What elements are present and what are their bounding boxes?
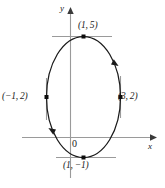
y-axis-label: y	[60, 4, 64, 13]
y-axis-arrow-icon	[67, 7, 73, 14]
point-label-right: (3, 2)	[118, 92, 137, 102]
point-marker-bottom	[82, 156, 86, 160]
ellipse-parametric-figure: (1, 5) (−1, 2) (3, 2) (1, −1) y x 0	[0, 0, 165, 188]
point-marker-top	[82, 35, 86, 39]
point-label-left: (−1, 2)	[2, 92, 28, 102]
ellipse-curve	[47, 37, 121, 158]
point-marker-left	[45, 95, 49, 99]
direction-arrow-upper-right-icon	[111, 59, 119, 66]
point-label-top: (1, 5)	[78, 21, 97, 31]
direction-arrow-lower-left-icon	[48, 128, 56, 135]
x-axis-label: x	[148, 142, 152, 151]
point-label-bottom: (1, −1)	[63, 161, 89, 171]
x-axis-arrow-icon	[150, 134, 157, 140]
origin-label: 0	[72, 139, 77, 149]
